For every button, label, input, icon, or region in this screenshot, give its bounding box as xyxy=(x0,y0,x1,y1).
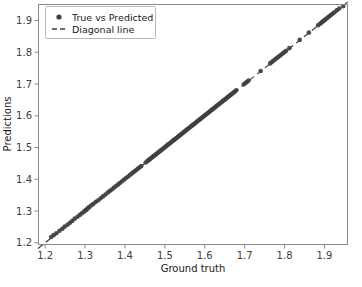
scatter-point xyxy=(287,46,292,51)
x-tick-label: 1.7 xyxy=(237,250,253,261)
y-tick-label: 1.7 xyxy=(16,79,32,90)
figure-canvas: 1.21.31.41.51.61.71.81.9 1.21.31.41.51.6… xyxy=(0,0,362,287)
scatter-point xyxy=(258,69,263,74)
scatter-point xyxy=(337,6,342,11)
scatter-point xyxy=(246,78,251,83)
x-tick-label: 1.3 xyxy=(77,250,93,261)
y-tick-label: 1.3 xyxy=(16,206,32,217)
scatter-point xyxy=(307,30,312,35)
legend[interactable]: True vs Predicted Diagonal line xyxy=(46,7,156,39)
y-tick-label: 1.8 xyxy=(16,47,32,58)
scatter-plot[interactable]: 1.21.31.41.51.61.71.81.9 1.21.31.41.51.6… xyxy=(0,0,362,287)
scatter-point xyxy=(234,88,239,93)
x-axis-ticks: 1.21.31.41.51.61.71.81.9 xyxy=(37,245,332,261)
x-tick-label: 1.6 xyxy=(197,250,213,261)
x-axis-label: Ground truth xyxy=(161,263,226,274)
y-tick-label: 1.6 xyxy=(16,110,32,121)
x-tick-label: 1.2 xyxy=(37,250,53,261)
legend-label-1: Diagonal line xyxy=(72,24,134,35)
y-axis-ticks: 1.21.31.41.51.61.71.81.9 xyxy=(16,15,38,248)
y-tick-label: 1.2 xyxy=(16,237,32,248)
y-tick-label: 1.5 xyxy=(16,142,32,153)
x-tick-label: 1.9 xyxy=(317,250,333,261)
scatter-point xyxy=(139,164,144,169)
legend-marker-scatter-icon xyxy=(56,14,61,19)
legend-label-0: True vs Predicted xyxy=(71,12,153,23)
x-tick-label: 1.8 xyxy=(277,250,293,261)
y-tick-label: 1.9 xyxy=(16,15,32,26)
scatter-point xyxy=(297,38,302,43)
y-axis-label: Predictions xyxy=(2,97,13,152)
x-tick-label: 1.5 xyxy=(157,250,173,261)
x-tick-label: 1.4 xyxy=(117,250,133,261)
y-tick-label: 1.4 xyxy=(16,174,32,185)
